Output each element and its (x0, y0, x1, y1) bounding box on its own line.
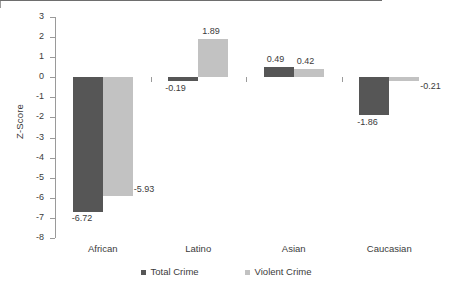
y-tick-mark (50, 37, 55, 38)
bar-value-label: -0.19 (165, 84, 186, 93)
x-tick-mark (246, 77, 247, 82)
y-tick-label: -5 (0, 173, 44, 182)
zero-baseline (0, 0, 382, 1)
category-label-caucasian: Caucasian (342, 244, 438, 254)
y-tick-label: -3 (0, 133, 44, 142)
y-tick-label: 0 (0, 72, 44, 81)
y-tick-label: -1 (0, 92, 44, 101)
bar-asian-total-crime (264, 67, 294, 77)
baseline-end-tick (0, 1, 1, 8)
y-tick-label: -6 (0, 193, 44, 202)
y-tick-mark (50, 97, 55, 98)
y-tick-mark (50, 238, 55, 239)
bar-caucasian-violent-crime (389, 77, 419, 81)
y-tick-mark (50, 57, 55, 58)
legend-swatch-icon (141, 270, 146, 275)
x-tick-mark (151, 77, 152, 82)
y-tick-mark (50, 218, 55, 219)
bar-value-label: 0.49 (267, 55, 285, 64)
y-tick-label: -2 (0, 112, 44, 121)
y-axis-line (55, 17, 56, 238)
bar-value-label: -6.72 (72, 214, 93, 223)
bar-african-total-crime (73, 77, 103, 212)
bar-value-label: -5.93 (134, 185, 155, 194)
y-tick-label: -8 (0, 233, 44, 242)
legend-item-violent-crime[interactable]: Violent Crime (245, 267, 312, 277)
y-tick-mark (50, 77, 55, 78)
legend-swatch-icon (245, 270, 250, 275)
legend-label: Violent Crime (255, 267, 312, 277)
bar-latino-total-crime (168, 77, 198, 81)
x-tick-mark (342, 77, 343, 82)
y-tick-mark (50, 178, 55, 179)
y-tick-label: 3 (0, 12, 44, 21)
legend-label: Total Crime (151, 267, 199, 277)
bar-african-violent-crime (103, 77, 133, 196)
bar-value-label: -0.21 (420, 82, 441, 91)
y-tick-mark (50, 138, 55, 139)
category-label-asian: Asian (246, 244, 342, 254)
bar-latino-violent-crime (198, 39, 228, 77)
bar-caucasian-total-crime (359, 77, 389, 114)
y-tick-label: 1 (0, 52, 44, 61)
chart-legend: Total CrimeViolent Crime (0, 266, 452, 278)
y-tick-mark (50, 158, 55, 159)
legend-item-total-crime[interactable]: Total Crime (141, 267, 199, 277)
y-tick-mark (50, 117, 55, 118)
bar-chart: Z-Score 3210-1-2-3-4-5-6-7-8 -6.72-5.93-… (0, 0, 452, 291)
category-label-latino: Latino (151, 244, 247, 254)
category-label-african: African (55, 244, 151, 254)
bar-value-label: 0.42 (297, 57, 315, 66)
bar-asian-violent-crime (294, 69, 324, 77)
y-tick-mark (50, 198, 55, 199)
y-tick-mark (50, 17, 55, 18)
y-tick-label: 2 (0, 32, 44, 41)
bar-value-label: 1.89 (202, 27, 220, 36)
bar-value-label: -1.86 (357, 118, 378, 127)
y-tick-label: -7 (0, 213, 44, 222)
y-tick-label: -4 (0, 153, 44, 162)
